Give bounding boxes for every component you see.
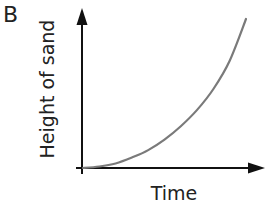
data-curve <box>83 19 246 168</box>
x-axis <box>76 163 265 174</box>
y-axis <box>77 8 88 174</box>
x-axis-arrow-icon <box>248 163 265 174</box>
chart-plot <box>0 0 273 204</box>
y-axis-arrow-icon <box>77 8 88 25</box>
